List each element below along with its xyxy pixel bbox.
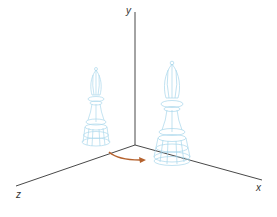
bishop-rotated	[154, 61, 190, 165]
diagram-canvas	[0, 0, 277, 217]
y-axis-label: y	[126, 5, 131, 16]
rotation-arrow	[109, 152, 146, 163]
x-axis-label: x	[256, 182, 261, 193]
z-axis-label: z	[16, 189, 21, 200]
bishop-original	[82, 68, 110, 147]
x-axis	[135, 145, 262, 180]
z-axis	[16, 145, 135, 186]
